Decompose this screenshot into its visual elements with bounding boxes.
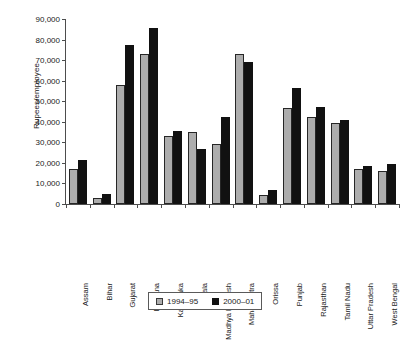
bar-series2 xyxy=(102,194,111,204)
x-axis-category-label: Orissa xyxy=(271,261,280,283)
y-axis-tick-mark xyxy=(62,122,66,123)
bar-series1 xyxy=(283,108,292,204)
x-axis-category-label-text: West Bengal xyxy=(390,283,399,325)
bar-group xyxy=(93,19,111,204)
bar-series2 xyxy=(149,28,158,204)
bar-series1 xyxy=(140,54,149,204)
bar-group xyxy=(378,19,396,204)
legend-swatch-icon xyxy=(212,298,219,305)
y-axis-tick-label: 20,000 xyxy=(36,158,60,167)
y-axis-tick-mark xyxy=(62,142,66,143)
bar-series2 xyxy=(125,45,134,204)
legend-swatch-icon xyxy=(156,298,163,305)
x-axis-category-label: Karnataka xyxy=(176,249,185,283)
y-axis-tick-mark xyxy=(62,163,66,164)
x-axis-category-label: Assam xyxy=(81,260,90,283)
legend-item[interactable]: 2000–01 xyxy=(212,297,254,306)
x-axis-category-label: Kerala xyxy=(200,261,209,283)
bar-series1 xyxy=(331,123,340,204)
x-axis-tick-mark xyxy=(399,204,400,208)
bar-group xyxy=(283,19,301,204)
bar-series1 xyxy=(212,144,221,204)
y-axis-tick-label: 50,000 xyxy=(36,97,60,106)
y-axis-tick-label: 60,000 xyxy=(36,76,60,85)
y-axis-tick-label: 0 xyxy=(56,200,60,209)
bar-series1 xyxy=(116,85,125,204)
y-axis-tick-label: 10,000 xyxy=(36,179,60,188)
y-axis-tick-mark xyxy=(62,101,66,102)
bar-group xyxy=(164,19,182,204)
bar-series2 xyxy=(340,120,349,204)
bar-group xyxy=(307,19,325,204)
y-axis-tick-label: 90,000 xyxy=(36,15,60,24)
bar-series2 xyxy=(268,190,277,204)
bar-series1 xyxy=(307,117,316,204)
y-axis-tick-label: 70,000 xyxy=(36,56,60,65)
y-axis-tick-mark xyxy=(62,19,66,20)
plot-area: 010,00020,00030,00040,00050,00060,00070,… xyxy=(66,19,399,204)
x-axis-category-label: Madhya Pradesh xyxy=(224,226,233,283)
bar-series2 xyxy=(292,88,301,204)
x-axis-category-label: West Bengal xyxy=(390,241,399,283)
x-axis-category-label-text: Rajasthan xyxy=(319,283,328,317)
bar-series2 xyxy=(244,62,253,204)
x-axis-category-label: Gujarat xyxy=(128,258,137,283)
x-axis-category-label-text: Tamil Nadu xyxy=(343,283,352,321)
bar-group xyxy=(212,19,230,204)
x-axis-category-label: Maharashtra xyxy=(247,241,256,283)
x-axis-category-label: Bihar xyxy=(105,265,114,283)
x-axis-category-label: Uttar Pradesh xyxy=(366,237,375,283)
bar-group xyxy=(354,19,372,204)
bar-group xyxy=(235,19,253,204)
x-axis-category-label: Tamil Nadu xyxy=(343,245,352,283)
x-axis-category-label: Rajasthan xyxy=(319,249,328,283)
x-axis-category-label-text: Gujarat xyxy=(128,283,137,308)
x-axis-category-label-text: Assam xyxy=(81,283,90,306)
y-axis-tick-label: 40,000 xyxy=(36,117,60,126)
y-axis-tick-label: 30,000 xyxy=(36,138,60,147)
x-axis-category-label-text: Punjab xyxy=(295,283,304,306)
y-axis-tick-mark xyxy=(62,183,66,184)
chart-legend: 1994–952000–01 xyxy=(148,292,262,310)
bar-series1 xyxy=(69,169,78,204)
legend-item[interactable]: 1994–95 xyxy=(156,297,198,306)
y-axis-tick-label: 80,000 xyxy=(36,35,60,44)
bar-group xyxy=(140,19,158,204)
bar-series1 xyxy=(378,171,387,204)
bar-series1 xyxy=(164,136,173,204)
x-axis-category-label-text: Uttar Pradesh xyxy=(366,283,375,329)
bar-series1 xyxy=(235,54,244,204)
bar-group xyxy=(116,19,134,204)
bar-series2 xyxy=(78,160,87,204)
bar-series1 xyxy=(259,195,268,204)
x-axis-category-label-text: Bihar xyxy=(105,283,114,301)
legend-label: 1994–95 xyxy=(167,297,198,306)
bar-group xyxy=(259,19,277,204)
bar-series1 xyxy=(354,169,363,204)
bar-group xyxy=(188,19,206,204)
y-axis-tick-mark xyxy=(62,81,66,82)
bar-series2 xyxy=(387,164,396,204)
bar-series2 xyxy=(173,131,182,204)
y-axis-tick-mark xyxy=(62,60,66,61)
y-axis-tick-mark xyxy=(62,40,66,41)
bar-series1 xyxy=(188,132,197,204)
x-axis-category-labels: AssamBiharGujaratHaryanaKarnatakaKeralaM… xyxy=(66,207,399,285)
legend-label: 2000–01 xyxy=(223,297,254,306)
bar-series2 xyxy=(221,117,230,204)
bar-series2 xyxy=(316,107,325,204)
x-axis-category-label: Haryana xyxy=(152,255,161,283)
bar-group xyxy=(331,19,349,204)
x-axis-category-label: Punjab xyxy=(295,260,304,283)
bar-series2 xyxy=(363,166,372,204)
x-axis-category-label-text: Orissa xyxy=(271,283,280,305)
bar-group xyxy=(69,19,87,204)
bar-series2 xyxy=(197,149,206,204)
bar-series1 xyxy=(93,198,102,204)
